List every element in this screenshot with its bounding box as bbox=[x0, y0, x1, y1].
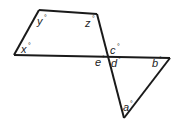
segment-topleft-to-topright bbox=[39, 10, 97, 14]
segment-left-to-topleft bbox=[14, 10, 39, 55]
angle-label-y: y ° bbox=[36, 14, 47, 27]
svg-text:°: ° bbox=[28, 42, 31, 49]
svg-text:d: d bbox=[111, 57, 118, 69]
svg-text:y: y bbox=[36, 15, 44, 27]
angle-diagram: y ° z ° x ° c ° e ° d ° b ° a ° bbox=[0, 0, 181, 129]
svg-text:e: e bbox=[95, 56, 101, 68]
segment-right-to-bottom bbox=[124, 58, 170, 118]
horizontal-line bbox=[14, 55, 170, 58]
svg-text:z: z bbox=[84, 17, 91, 29]
angle-label-z: z ° bbox=[84, 15, 95, 29]
svg-text:°: ° bbox=[92, 15, 95, 22]
svg-text:°: ° bbox=[117, 43, 120, 50]
angle-label-e: e ° bbox=[95, 55, 105, 68]
svg-text:°: ° bbox=[44, 14, 47, 21]
angle-label-d: d ° bbox=[111, 56, 121, 69]
svg-text:b: b bbox=[152, 57, 158, 69]
svg-text:°: ° bbox=[159, 56, 162, 63]
angle-label-x: x ° bbox=[20, 42, 31, 55]
svg-text:°: ° bbox=[102, 55, 105, 62]
svg-text:°: ° bbox=[118, 56, 121, 63]
svg-text:°: ° bbox=[130, 100, 133, 107]
svg-text:c: c bbox=[110, 44, 116, 56]
svg-text:x: x bbox=[20, 43, 27, 55]
angle-label-a: a ° bbox=[123, 100, 133, 113]
angle-label-b: b ° bbox=[152, 56, 162, 69]
svg-text:a: a bbox=[123, 101, 129, 113]
angle-label-c: c ° bbox=[110, 43, 120, 56]
